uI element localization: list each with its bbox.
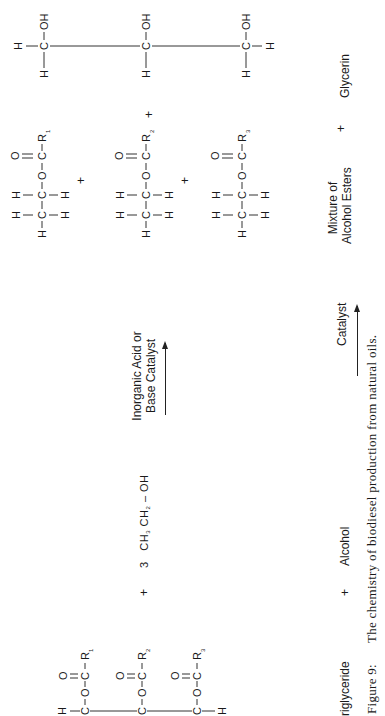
svg-text:C: C [38,42,50,50]
svg-text:O: O [9,151,21,160]
svg-text:H: H [10,211,22,219]
svg-text:C: C [191,672,203,680]
svg-text:C: C [79,707,91,715]
svg-text:H: H [216,707,228,715]
label-catalyst: Catalyst [335,303,349,346]
svg-text:O: O [57,671,69,680]
plus-sign-ester-2-3: + [178,177,192,184]
svg-text:O: O [79,688,91,697]
svg-text:R: R [136,652,148,660]
svg-text:OH: OH [38,13,50,30]
plus-sign-ester-1-2: + [74,177,88,184]
svg-text:C: C [236,152,248,160]
svg-text:C: C [36,152,48,160]
label-alcohol-esters: Mixture of Alcohol Esters [326,172,354,244]
alcohol-coefficient: 3 [138,561,150,568]
svg-text:H: H [36,230,48,238]
svg-text:H: H [163,211,175,219]
svg-text:H: H [140,230,152,238]
svg-text:H: H [240,70,252,78]
svg-text:3: 3 [200,648,206,652]
svg-text:H: H [140,70,152,78]
svg-text:C: C [140,191,152,199]
svg-text:H: H [163,191,175,199]
catalyst-text-top: Inorganic Acid or Base Catalyst [130,326,158,426]
svg-text:H: H [38,70,50,78]
svg-text:C: C [236,211,248,219]
label-triglyceride: riglyceride [338,661,352,716]
svg-text:O: O [113,151,125,160]
svg-text:2: 2 [149,129,155,133]
esters-label-line-1: Mixture of [326,172,340,244]
catalyst-line-1: Inorganic Acid or [130,326,144,426]
svg-text:O: O [136,688,148,697]
svg-text:C: C [140,152,152,160]
figure-number: Figure 9: [364,664,379,714]
svg-text:3: 3 [245,129,251,133]
svg-text:H: H [114,211,126,219]
svg-text:H: H [259,191,271,199]
svg-text:C: C [140,211,152,219]
svg-text:H: H [210,191,222,199]
reaction-arrow-bottom [357,306,358,376]
label-plus-products: + [334,125,348,132]
svg-text:1: 1 [88,648,94,652]
svg-text:1: 1 [45,129,51,133]
label-alcohol: Alcohol [338,527,352,566]
svg-text:H: H [114,191,126,199]
catalyst-line-2: Base Catalyst [144,326,158,426]
svg-text:R: R [236,134,248,142]
svg-text:O: O [140,171,152,180]
alcohol-formula: 3 CH3 CH2 – OH [138,474,151,568]
formula-ch2: CH [138,510,150,527]
esters-label-line-2: Alcohol Esters [340,172,354,244]
svg-text:H: H [259,211,271,219]
svg-text:R: R [191,652,203,660]
svg-text:C: C [140,42,152,50]
svg-text:C: C [136,672,148,680]
glycerin-structure: H HCOH HCOH HCOH H [0,2,290,112]
label-plus-reactants: + [338,589,352,596]
svg-text:H: H [10,191,22,199]
svg-text:H: H [264,42,276,50]
atom-h: H [56,707,68,715]
svg-text:C: C [191,707,203,715]
svg-text:OH: OH [240,13,252,30]
svg-text:H: H [210,211,222,219]
figure-caption: Figure 9: The chemistry of biodiesel pro… [364,335,380,714]
plus-sign-products-esters: + [142,111,156,118]
svg-text:H: H [236,230,248,238]
label-glycerin: Glycerin [338,54,352,98]
formula-ch3: CH [138,534,150,551]
formula-oh: – OH [138,474,150,502]
svg-text:C: C [79,672,91,680]
svg-text:H: H [12,42,24,50]
svg-text:C: C [36,191,48,199]
svg-text:O: O [114,671,126,680]
svg-text:R: R [79,652,91,660]
triglyceride-structure: H C O C O R 1 C O C O R 2 C O C O R 3 H [0,596,240,716]
svg-text:C: C [240,42,252,50]
svg-text:C: C [136,707,148,715]
document-page: H C O C O R 1 C O C O R 2 C O C O R 3 H … [0,0,385,716]
reaction-arrow-top [165,343,166,415]
figure-caption-text: The chemistry of biodiesel production fr… [364,335,379,644]
svg-text:O: O [191,688,203,697]
subscript-3: 3 [145,530,151,534]
svg-text:H: H [59,191,71,199]
svg-text:O: O [169,671,181,680]
svg-text:O: O [209,151,221,160]
svg-text:H: H [59,211,71,219]
svg-text:R: R [140,134,152,142]
svg-text:O: O [36,171,48,180]
subscript-2: 2 [145,506,151,510]
svg-text:C: C [236,191,248,199]
svg-text:OH: OH [140,13,152,30]
svg-text:O: O [236,171,248,180]
svg-text:C: C [36,211,48,219]
svg-text:2: 2 [145,648,151,652]
plus-sign-reactants: + [137,589,151,596]
svg-text:R: R [36,134,48,142]
